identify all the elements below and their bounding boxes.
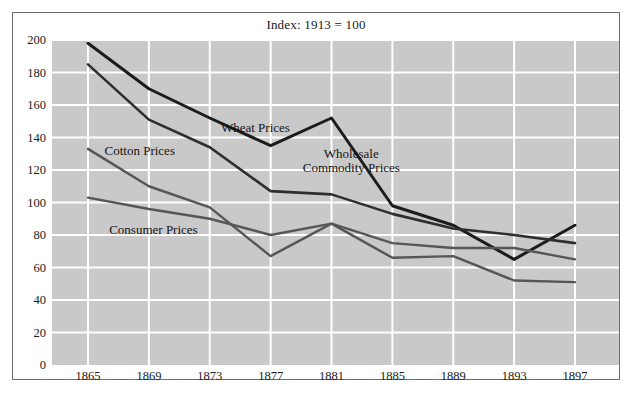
wheat-label: Wheat Prices <box>221 120 290 135</box>
y-axis-tick-label: 40 <box>34 293 47 308</box>
cotton-label: Cotton Prices <box>105 143 175 158</box>
y-axis-tick-label: 20 <box>34 325 47 340</box>
y-axis-tick-label: 80 <box>34 228 47 243</box>
wholesale-label-line1: Wholesale <box>303 147 400 162</box>
x-axis-tick-label: 1873 <box>197 369 222 384</box>
consumer-label: Consumer Prices <box>109 223 197 238</box>
series-line-consumer-prices <box>88 198 575 283</box>
y-axis-tick-label: 160 <box>27 98 46 113</box>
plot-area <box>52 40 619 365</box>
x-axis-tick-label: 1881 <box>319 369 344 384</box>
y-axis-tick-label: 120 <box>27 163 46 178</box>
x-axis-tick-label: 1869 <box>136 369 161 384</box>
series-layer <box>52 40 619 365</box>
x-axis-tick-label: 1897 <box>563 369 588 384</box>
y-axis-tick-label: 60 <box>34 260 47 275</box>
x-axis-tick-label: 1893 <box>502 369 527 384</box>
y-axis-tick-label: 0 <box>40 358 46 373</box>
x-axis-tick-label: 1885 <box>380 369 405 384</box>
chart-figure: Index: 1913 = 100 0204060801001201401601… <box>0 0 639 395</box>
y-axis-tick-label: 140 <box>27 130 46 145</box>
x-axis-tick-label: 1877 <box>258 369 283 384</box>
wholesale-label: WholesaleCommodity Prices <box>303 147 400 176</box>
y-axis-tick-label: 100 <box>27 195 46 210</box>
x-axis-tick-label: 1865 <box>76 369 101 384</box>
wholesale-label-line2: Commodity Prices <box>303 162 400 177</box>
y-axis-tick-label: 180 <box>27 65 46 80</box>
chart-title: Index: 1913 = 100 <box>12 17 620 33</box>
y-axis-tick-label: 200 <box>27 33 46 48</box>
x-axis-tick-label: 1889 <box>441 369 466 384</box>
